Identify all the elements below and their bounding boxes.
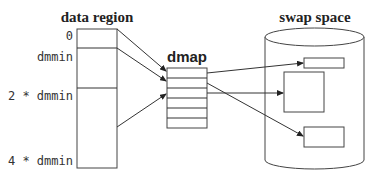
region-to-dmap-arrows xyxy=(117,29,166,127)
swap-space: swap space xyxy=(265,9,364,169)
label-0: 0 xyxy=(66,29,73,43)
dmap: dmap xyxy=(167,48,207,128)
dmap-title: dmap xyxy=(167,48,207,65)
swap-space-title: swap space xyxy=(279,9,351,25)
data-region: data region 0 dmmin 2 * dmmin 4 * dmmin xyxy=(8,9,134,168)
swap-cylinder-top xyxy=(265,28,364,46)
label-2-dmmin: 2 * dmmin xyxy=(8,89,73,103)
diagram-canvas: data region 0 dmmin 2 * dmmin 4 * dmmin … xyxy=(0,0,382,183)
data-region-box xyxy=(77,29,117,168)
arrow-region-2dmmin xyxy=(117,94,166,127)
swap-block-small xyxy=(304,58,344,68)
data-region-title: data region xyxy=(61,9,134,25)
label-dmmin: dmmin xyxy=(37,50,73,64)
swap-block-medium xyxy=(304,127,344,147)
label-4-dmmin: 4 * dmmin xyxy=(8,154,73,168)
swap-block-square xyxy=(284,72,324,112)
